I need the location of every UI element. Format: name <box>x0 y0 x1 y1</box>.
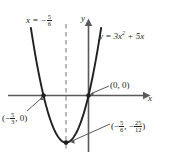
point-marker-origin <box>86 93 91 98</box>
parabola-graph-figure: x = −56 y = 3x2 + 5x y x (0, 0) (−53, 0)… <box>0 0 171 164</box>
x-axis-label: x <box>148 94 152 103</box>
curve-equation-exponent: 2 <box>122 30 125 36</box>
vertex-open: (− <box>111 121 119 131</box>
root-close: , 0) <box>15 113 27 123</box>
leader-line-vertex <box>72 124 110 141</box>
x-axis <box>8 92 151 99</box>
axis-of-symmetry-denominator: 6 <box>47 21 52 27</box>
curve-equation-operator: + <box>127 31 133 41</box>
root-open: (− <box>2 113 10 123</box>
leader-line-root <box>27 98 42 111</box>
axis-of-symmetry-prefix: x = − <box>26 15 47 25</box>
curve-equation-label: y = 3x2 + 5x <box>99 31 144 41</box>
parabola-curve <box>31 28 101 143</box>
vertex-point-label: (−56, −2512) <box>111 120 145 134</box>
leader-line-origin <box>92 86 110 94</box>
curve-equation-lhs: y = <box>99 31 111 41</box>
axis-of-symmetry-fraction: 56 <box>47 14 52 28</box>
y-axis-arrowhead <box>85 19 92 27</box>
axis-of-symmetry-label: x = −56 <box>26 14 52 28</box>
y-axis-label: y <box>81 14 85 23</box>
vertex-close: ) <box>142 121 145 131</box>
parabola-sample-points <box>25 30 111 82</box>
vertex-middle: , − <box>124 121 134 131</box>
origin-point-label: (0, 0) <box>110 81 130 90</box>
point-marker-vertex <box>64 140 69 145</box>
root-point-label: (−53, 0) <box>2 112 27 126</box>
curve-equation-term2: 5x <box>136 31 145 41</box>
